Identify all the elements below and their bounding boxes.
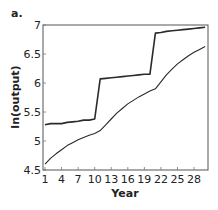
- x-tick-label: 16: [121, 173, 135, 186]
- y-tick-label: 6: [34, 77, 41, 90]
- line-chart: 4.555.566.57 14710131619222528 Year ln(o…: [0, 0, 218, 210]
- x-tick-label: 25: [170, 173, 184, 186]
- x-tick-label: 22: [154, 173, 168, 186]
- x-tick-label: 4: [58, 173, 65, 186]
- x-tick-label: 1: [42, 173, 49, 186]
- series-lower-line: [45, 47, 205, 165]
- y-tick-label: 7: [34, 19, 41, 32]
- x-tick-label: 19: [137, 173, 151, 186]
- x-tick-label: 28: [187, 173, 201, 186]
- x-tick-label: 10: [88, 173, 102, 186]
- plot-border: [43, 25, 208, 170]
- x-tick-label: 7: [75, 173, 82, 186]
- y-tick-label: 5.5: [24, 106, 42, 119]
- y-tick-label: 6.5: [24, 48, 42, 61]
- series-upper-line: [45, 27, 205, 125]
- x-tick-label: 13: [104, 173, 118, 186]
- plot-frame: [43, 25, 208, 170]
- y-tick-label: 5: [34, 135, 41, 148]
- y-tick-label: 4.5: [24, 164, 42, 177]
- x-axis-title: Year: [110, 187, 139, 200]
- y-axis-title: ln(output): [9, 65, 22, 128]
- data-series: [45, 27, 205, 164]
